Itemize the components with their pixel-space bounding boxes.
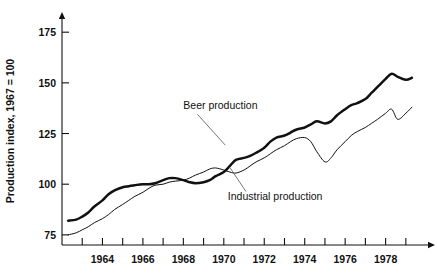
axes-layer bbox=[59, 12, 435, 248]
y-axis-tick-labels: 75100125150175 bbox=[38, 26, 56, 241]
beer-production-label: Beer production bbox=[183, 99, 257, 111]
y-axis-tick-label: 100 bbox=[38, 178, 56, 190]
x-axis-tick-label: 1972 bbox=[253, 253, 277, 265]
production-index-line-chart: 75100125150175 1964196619681970197219741… bbox=[0, 0, 437, 280]
x-axis-tick-label: 1978 bbox=[374, 253, 398, 265]
y-axis-tick-label: 75 bbox=[44, 229, 56, 241]
series-line-industrial-production bbox=[68, 107, 412, 235]
chart-container: 75100125150175 1964196619681970197219741… bbox=[0, 0, 437, 280]
x-axis-tick-marks bbox=[82, 238, 406, 245]
y-axis-tick-label: 150 bbox=[38, 77, 56, 89]
data-series-layer bbox=[68, 74, 412, 235]
x-axis-tick-label: 1976 bbox=[333, 253, 357, 265]
y-axis-arrow-icon bbox=[59, 12, 65, 19]
y-axis-tick-label: 175 bbox=[38, 26, 56, 38]
series-annotations: Beer production Industrial production bbox=[183, 99, 322, 202]
x-axis-tick-labels: 19641966196819701972197419761978 bbox=[91, 253, 398, 265]
y-axis-tick-label: 125 bbox=[38, 128, 56, 140]
y-axis-title: Production index, 1967 = 100 bbox=[4, 59, 16, 204]
x-axis-tick-label: 1968 bbox=[172, 253, 196, 265]
y-axis-tick-marks bbox=[62, 32, 69, 235]
x-axis-tick-label: 1964 bbox=[91, 253, 115, 265]
industrial-production-leader-line bbox=[230, 167, 246, 191]
x-axis-arrow-icon bbox=[428, 242, 435, 248]
x-axis-tick-label: 1974 bbox=[293, 253, 317, 265]
x-axis-tick-label: 1966 bbox=[131, 253, 155, 265]
x-axis-tick-label: 1970 bbox=[212, 253, 236, 265]
industrial-production-label: Industrial production bbox=[228, 190, 323, 202]
beer-production-leader-line bbox=[197, 114, 225, 145]
